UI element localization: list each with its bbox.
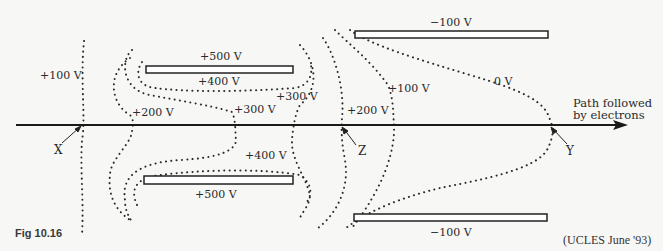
label-point-x: X bbox=[54, 144, 63, 156]
label-plate-upper-right: −100 V bbox=[430, 17, 472, 28]
label-300v-mid: +300 V bbox=[234, 104, 276, 115]
label-electron-path-line2: by electrons bbox=[573, 109, 652, 121]
label-300v-right: +300 V bbox=[276, 91, 318, 102]
electron-lens-diagram: +500 V +500 V −100 V −100 V +100 V +400 … bbox=[0, 0, 663, 251]
plate-upper-left bbox=[146, 66, 293, 73]
label-point-y: Y bbox=[566, 145, 574, 157]
diagram-graphics bbox=[0, 0, 663, 251]
label-0v: 0 V bbox=[494, 76, 512, 87]
equipotential-300v-right bbox=[292, 45, 314, 218]
equipotential-200v-left bbox=[110, 58, 133, 220]
plate-lower-left bbox=[144, 176, 293, 184]
label-plate-lower-right: −100 V bbox=[430, 227, 472, 238]
plate-upper-right bbox=[355, 31, 548, 38]
label-electron-path: Path followed by electrons bbox=[573, 97, 652, 121]
figure-caption: Fig 10.16 bbox=[15, 227, 62, 239]
label-point-z: Z bbox=[358, 145, 366, 157]
label-plate-lower-left: +500 V bbox=[195, 189, 237, 200]
label-plate-upper-left: +500 V bbox=[200, 51, 242, 62]
equipotential-200v-right bbox=[318, 38, 346, 228]
label-100v-left: +100 V bbox=[40, 70, 82, 81]
label-400v-lower: +400 V bbox=[245, 150, 287, 161]
equipotential-0v bbox=[346, 30, 553, 228]
label-400v-upper: +400 V bbox=[198, 76, 240, 87]
label-200v-left: +200 V bbox=[132, 107, 174, 118]
figure-source: (UCLES June '93) bbox=[563, 233, 651, 248]
label-200v-right: +200 V bbox=[347, 105, 389, 116]
label-100v-right: +100 V bbox=[388, 83, 430, 94]
plate-lower-right bbox=[354, 214, 547, 221]
